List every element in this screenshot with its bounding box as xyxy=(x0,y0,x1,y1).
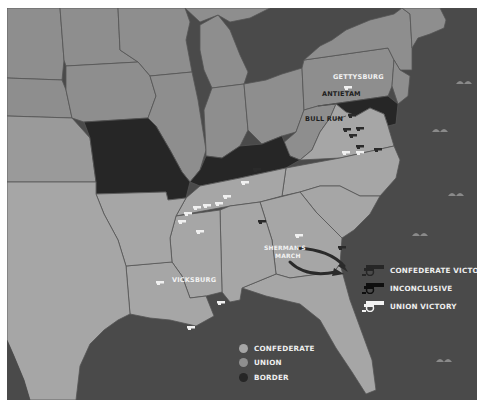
state-nebraska xyxy=(7,78,72,118)
state-dakotas xyxy=(7,8,64,80)
legend-confederate-states: CONFEDERATE xyxy=(239,344,315,353)
union-swatch xyxy=(239,358,248,367)
wave-mark-icon xyxy=(412,230,432,236)
label-shermans-march-line1: SHERMAN'S xyxy=(264,245,306,251)
legend-label: CONFEDERATE VICTORY xyxy=(390,266,477,275)
legend-border-states: BORDER xyxy=(239,373,289,382)
confederate-swatch xyxy=(239,344,248,353)
legend-label: UNION VICTORY xyxy=(390,302,457,311)
cannon-icon xyxy=(362,300,384,312)
label-shermans-march-line2: MARCH xyxy=(275,253,301,259)
cannon-icon xyxy=(362,282,384,294)
legend-label: UNION xyxy=(254,358,282,367)
label-gettysburg: GETTYSBURG xyxy=(333,74,384,81)
state-iowa xyxy=(66,62,156,122)
legend-label: BORDER xyxy=(254,373,289,382)
map-frame: GETTYSBURG ANTIETAM BULL RUN VICKSBURG S… xyxy=(7,8,477,400)
label-bull-run: BULL RUN xyxy=(305,116,343,123)
label-antietam: ANTIETAM xyxy=(322,91,361,98)
legend-label: CONFEDERATE xyxy=(254,344,315,353)
label-vicksburg: VICKSBURG xyxy=(172,277,216,284)
cannon-icon xyxy=(362,264,384,276)
legend-union-states: UNION xyxy=(239,358,282,367)
wave-mark-icon xyxy=(456,78,476,84)
legend-confederate-victory: CONFEDERATE VICTORY xyxy=(362,264,477,276)
border-swatch xyxy=(239,373,248,382)
legend-inconclusive: INCONCLUSIVE xyxy=(362,282,452,294)
wave-mark-icon xyxy=(448,190,468,196)
legend-union-victory: UNION VICTORY xyxy=(362,300,457,312)
civil-war-map xyxy=(7,8,477,400)
legend-label: INCONCLUSIVE xyxy=(390,284,452,293)
wave-mark-icon xyxy=(432,126,452,132)
wave-mark-icon xyxy=(436,356,456,362)
